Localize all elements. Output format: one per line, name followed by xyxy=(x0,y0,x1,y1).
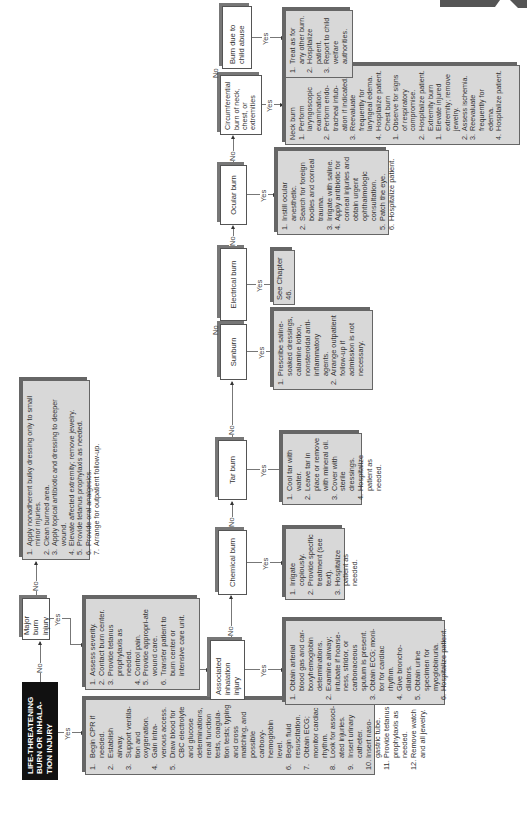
action-item: 3.Provide tetanus prophylaxis as needed. xyxy=(107,603,134,685)
action-item: 1.Begin CPR if needed. xyxy=(89,704,107,770)
yes-label: Yes xyxy=(262,558,270,570)
life-threatening-node: LIFE-THREATENING BURN OR INHALA-TION INJ… xyxy=(22,682,58,780)
child-abuse-burn-node: Burn due to child abuse xyxy=(222,6,252,69)
action-item: 6.Begin fluid resuscitation. xyxy=(285,704,303,770)
action-item: 1.Apply nonadherent bulky dressing only … xyxy=(26,385,43,555)
tar-burn-node: Tar burn xyxy=(218,440,247,500)
action-item: 3.Report to child welfare authorities. xyxy=(323,15,349,73)
sunburn-label: Sunburn xyxy=(229,338,238,367)
action-item: 1.Treat as for any other burn. xyxy=(289,15,306,73)
major-burn-node: Major burn injury xyxy=(22,598,50,640)
minor-burn-actions: 1.Apply nonadherent bulky dressing only … xyxy=(22,380,90,560)
yes-label: Yes xyxy=(266,100,274,112)
associated-inhalation-node: Associated inhalation injury xyxy=(210,640,245,700)
action-item: 3.Hospitalize patient as needed. xyxy=(334,533,361,595)
no-label: No xyxy=(229,151,237,161)
ocular-burn-node: Ocular burn xyxy=(220,165,247,225)
action-item: 7.Obtain ECG; monitor cardiac rhythm. xyxy=(303,704,330,770)
child-abuse-burn-label: Burn due to child abuse xyxy=(228,11,246,64)
chemical-burn-label: Chemical burn xyxy=(228,538,237,587)
action-item: 2.Provide specific treatment (see text). xyxy=(307,533,334,595)
action-item: 2.Search for foreign bodies and corneal … xyxy=(299,155,326,230)
major-burn-label: Major burn injury xyxy=(22,603,50,635)
action-item: 6.Hospitalize patient. xyxy=(440,625,449,700)
action-item: 3.Support ventila-tion and oxygenation. xyxy=(125,704,152,770)
yes-label: Yes xyxy=(258,347,266,359)
yes-label: Yes xyxy=(260,190,268,202)
action-item: 1.Prescribe saline-soaked dressings, cal… xyxy=(277,315,330,385)
action-item: 3.Reevaluate frequently for laryngeal ed… xyxy=(349,70,375,140)
major-burn-actions: 1.Assess severity. 2.Contact burn center… xyxy=(85,598,200,690)
action-item: 7.Arrange for outpatient follow-up. xyxy=(93,385,101,555)
action-item: 1.Elevate injured extremity; remove jewe… xyxy=(435,70,461,140)
sunburn-actions: 1.Prescribe saline-soaked dressings, cal… xyxy=(273,310,373,390)
see-chapter-text: See Chapter 46. xyxy=(275,255,293,300)
action-item: 1.Obtain arterial blood gas and car-boxy… xyxy=(289,625,325,700)
action-item: 3.Cover with sterile dressings. xyxy=(331,438,358,500)
circumferential-burn-node: Circumferential burn of neck, chest, or … xyxy=(220,75,262,135)
no-label: No xyxy=(227,626,235,636)
yes-label: Yes xyxy=(54,614,62,626)
connector-line xyxy=(36,562,37,598)
connector-line xyxy=(234,72,235,75)
action-item: 10.Insert naso-gastric tube. xyxy=(365,704,383,770)
arrow-right-icon xyxy=(231,225,235,229)
action-item: 1.Irrigate copiously. xyxy=(289,533,307,595)
chemical-burn-actions: 1.Irrigate copiously. 2.Provide specific… xyxy=(285,528,345,600)
action-item: 5.Draw blood for CBC electrolyte and glu… xyxy=(169,704,285,770)
action-item: 4.Hospitalize patient. xyxy=(495,70,504,140)
sunburn-node: Sunburn xyxy=(220,324,247,380)
child-abuse-actions: 1.Treat as for any other burn. 2.Hospita… xyxy=(285,10,353,78)
connector-line xyxy=(233,323,234,324)
tar-burn-actions: 1.Cool tar with water. 2.Leave tar in pl… xyxy=(282,433,362,505)
yes-label: Yes xyxy=(262,33,270,45)
action-item: 3.Apply topical antibiotic and dressing … xyxy=(51,385,68,555)
electrical-burn-node: Electrical burn xyxy=(220,248,247,321)
arrow-right-icon xyxy=(34,561,38,565)
arrow-right-icon xyxy=(230,381,234,385)
action-item: 4.Hospitalize patient as needed. xyxy=(357,438,384,500)
no-label: No xyxy=(212,325,220,335)
ocular-burn-actions: 1.Instill ocular anesthetic. 2.Search fo… xyxy=(277,150,389,235)
arrow-right-icon xyxy=(229,595,233,599)
action-item: 4.Hospitalize patient. xyxy=(375,70,384,140)
action-item: 5.Obtain urine specimen for myoglobinuri… xyxy=(414,625,441,700)
yes-label: Yes xyxy=(64,728,72,740)
action-item: 2.Establish airway. xyxy=(107,704,125,770)
arrow-right-icon xyxy=(230,501,234,505)
action-item: 9.Insert urinary catheter. xyxy=(347,704,365,770)
connector-line xyxy=(70,618,71,645)
action-item: 2.Arrange outpatient follow-up if admiss… xyxy=(330,315,366,385)
action-item: 8.Look for associ-ated injuries. xyxy=(329,704,347,770)
no-label: No xyxy=(36,663,44,673)
action-item: 12.Remove watch and all jewelry. xyxy=(410,704,428,770)
page-tab-decoration xyxy=(440,0,527,20)
no-label: No xyxy=(32,581,40,591)
action-item: 2.Leave tar in place or remove with mine… xyxy=(304,438,331,500)
no-label: No xyxy=(228,425,236,435)
arrow-down-icon xyxy=(280,103,284,107)
yes-label: Yes xyxy=(256,280,264,292)
inhalation-actions: 1.Obtain arterial blood gas and car-boxy… xyxy=(285,620,445,705)
arrow-right-icon xyxy=(38,641,42,645)
action-item: 3.Obtain ECG; moni-tor for cardiac rhyth… xyxy=(369,625,396,700)
tar-burn-label: Tar burn xyxy=(228,456,237,484)
life-threatening-label: LIFE-THREATENING BURN OR INHALA-TION INJ… xyxy=(26,688,55,774)
action-item: 5.Provide appropri-ate wound care. xyxy=(142,603,160,685)
action-item: 1.Instill ocular anesthetic. xyxy=(281,155,299,230)
action-item: 2.Hospitalize patient. xyxy=(306,15,323,73)
chemical-burn-node: Chemical burn xyxy=(218,530,247,595)
action-item: 11.Provide tetanus prophylaxis as needed… xyxy=(383,704,410,770)
action-item: 1.Perform laryngoscopic examination. xyxy=(298,70,324,140)
burn-flowchart: LIFE-THREATENING BURN OR INHALA-TION INJ… xyxy=(0,0,527,835)
electrical-burn-label: Electrical burn xyxy=(229,260,238,308)
life-threatening-actions: 1.Begin CPR if needed. 2.Establish airwa… xyxy=(85,699,375,775)
action-item: 2.Hospitalize patient. xyxy=(418,70,427,140)
circumferential-burn-label: Circumferential burn of neck, chest, or … xyxy=(224,80,258,130)
no-label: No xyxy=(212,68,220,78)
no-label: No xyxy=(229,236,237,246)
no-label: No xyxy=(228,517,236,527)
action-item: 4.Gain intra-venous access. xyxy=(151,704,169,770)
action-item: 3.Reevaluate frequently for edema. xyxy=(469,70,495,140)
arrow-right-icon xyxy=(231,135,235,139)
